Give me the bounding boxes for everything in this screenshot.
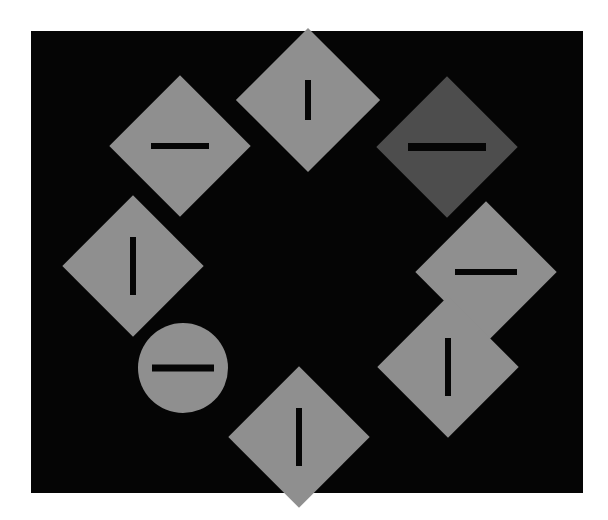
bar-horizontal-icon-left-lower <box>152 365 214 372</box>
stimulus-top-left[interactable] <box>130 96 230 196</box>
bar-horizontal-icon-top-left <box>151 143 209 149</box>
stimulus-display-panel <box>31 31 583 493</box>
stimulus-left-upper[interactable] <box>83 216 183 316</box>
bar-horizontal-icon-top-right <box>408 143 486 151</box>
stimulus-bottom-center[interactable] <box>249 387 349 487</box>
bar-vertical-icon-right-lower <box>445 338 451 396</box>
bar-horizontal-icon-right-upper <box>455 269 517 275</box>
stimulus-canvas <box>0 0 608 520</box>
stimulus-left-lower[interactable] <box>138 323 228 413</box>
bar-vertical-icon-top-center <box>305 80 311 120</box>
bar-vertical-icon-bottom-center <box>296 408 302 466</box>
stimulus-top-center[interactable] <box>257 49 359 151</box>
bar-vertical-icon-left-upper <box>130 237 136 295</box>
stimulus-top-right[interactable] <box>397 97 497 197</box>
stimulus-right-lower[interactable] <box>398 317 498 417</box>
